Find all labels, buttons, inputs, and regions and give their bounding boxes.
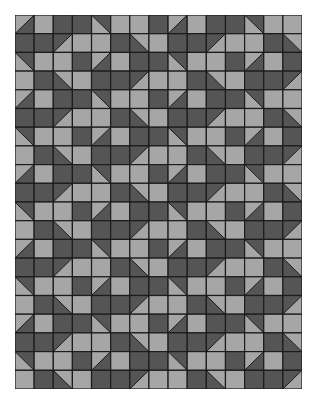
quilt-cell [283, 52, 302, 71]
quilt-cell [283, 370, 302, 389]
quilt-cell [53, 239, 72, 258]
quilt-cell [187, 314, 206, 333]
quilt-cell [111, 277, 130, 296]
quilt-cell [206, 183, 225, 202]
quilt-cell [187, 370, 206, 389]
quilt-cell [34, 183, 53, 202]
quilt-cell [225, 90, 244, 109]
quilt-cell [245, 370, 264, 389]
quilt-cell [34, 146, 53, 165]
quilt-cell [130, 277, 149, 296]
quilt-cell [15, 183, 34, 202]
quilt-cell [72, 202, 91, 221]
quilt-cell [187, 183, 206, 202]
quilt-cell [245, 109, 264, 128]
quilt-cell [283, 146, 302, 165]
quilt-cell [168, 277, 187, 296]
quilt-cell [130, 333, 149, 352]
quilt-cell [72, 71, 91, 90]
quilt-cell [206, 109, 225, 128]
quilt-cell [245, 239, 264, 258]
quilt-cell [283, 34, 302, 53]
quilt-cell [92, 277, 111, 296]
quilt-cell [149, 221, 168, 240]
quilt-cell [34, 352, 53, 371]
quilt-cell [187, 277, 206, 296]
quilt-cell [225, 183, 244, 202]
quilt-cell [15, 202, 34, 221]
quilt-cell [225, 352, 244, 371]
quilt-cell [206, 34, 225, 53]
quilt-cell [245, 333, 264, 352]
quilt-cell [72, 183, 91, 202]
quilt-cell [53, 202, 72, 221]
quilt-cell [92, 370, 111, 389]
quilt-cell [130, 202, 149, 221]
quilt-cell [15, 277, 34, 296]
quilt-cell [245, 277, 264, 296]
quilt-svg [15, 15, 302, 389]
quilt-cell [130, 296, 149, 315]
quilt-cell [111, 34, 130, 53]
quilt-cell [206, 127, 225, 146]
quilt-cell [245, 296, 264, 315]
quilt-cell [149, 314, 168, 333]
quilt-cell [283, 109, 302, 128]
quilt-cell [149, 296, 168, 315]
quilt-cell [206, 296, 225, 315]
quilt-cell [187, 52, 206, 71]
quilt-cell [245, 314, 264, 333]
quilt-cell [92, 109, 111, 128]
quilt-cell [53, 277, 72, 296]
quilt-cell [111, 370, 130, 389]
quilt-cell [264, 314, 283, 333]
quilt-cell [264, 221, 283, 240]
quilt-cell [264, 71, 283, 90]
quilt-cell [187, 296, 206, 315]
quilt-cell [283, 314, 302, 333]
quilt-cell [283, 165, 302, 184]
quilt-cell [15, 90, 34, 109]
quilt-cell [111, 314, 130, 333]
quilt-cell [34, 221, 53, 240]
quilt-cell [206, 258, 225, 277]
quilt-cell [72, 127, 91, 146]
quilt-cell [92, 34, 111, 53]
quilt-cell [92, 15, 111, 34]
quilt-cell [168, 165, 187, 184]
quilt-cell [53, 370, 72, 389]
quilt-cell [283, 202, 302, 221]
quilt-cell [15, 34, 34, 53]
quilt-cell [53, 34, 72, 53]
quilt-cell [15, 165, 34, 184]
quilt-cell [283, 239, 302, 258]
quilt-cell [264, 52, 283, 71]
quilt-cell [225, 221, 244, 240]
quilt-cell [245, 221, 264, 240]
quilt-cell [72, 146, 91, 165]
quilt-cell [34, 239, 53, 258]
quilt-cell [92, 221, 111, 240]
quilt-cell [225, 165, 244, 184]
quilt-cell [245, 202, 264, 221]
quilt-cell [168, 90, 187, 109]
quilt-cell [187, 352, 206, 371]
quilt-cell [225, 146, 244, 165]
quilt-cell [72, 296, 91, 315]
quilt-cell [245, 15, 264, 34]
quilt-cell [34, 370, 53, 389]
quilt-cell [245, 90, 264, 109]
quilt-cell [34, 165, 53, 184]
quilt-cell [149, 183, 168, 202]
quilt-cell [130, 165, 149, 184]
quilt-cell [92, 71, 111, 90]
quilt-cell [168, 71, 187, 90]
quilt-cell [245, 34, 264, 53]
quilt-cell [72, 109, 91, 128]
quilt-cell [15, 333, 34, 352]
quilt-cell [187, 165, 206, 184]
quilt-cell [130, 52, 149, 71]
quilt-cell [264, 370, 283, 389]
quilt-cell [53, 15, 72, 34]
quilt-cell [34, 277, 53, 296]
